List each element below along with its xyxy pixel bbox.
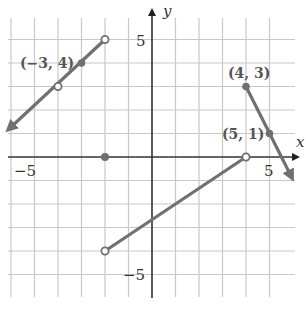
label-minus3-4: (−3, 4) <box>20 55 74 71</box>
y-axis-label: y <box>162 2 172 20</box>
open-point-minus2-5 <box>101 36 108 43</box>
open-point-minus4-3 <box>54 83 61 90</box>
piecewise-graph: x y −5 5 5 −5 (−3, 4) (4, 3) (5, 1) <box>0 0 306 315</box>
closed-point-4-3 <box>242 83 250 91</box>
x-axis-label: x <box>296 133 305 151</box>
closed-point-minus2-0 <box>101 153 109 161</box>
open-point-4-0 <box>242 153 249 160</box>
tick-x-neg5: −5 <box>14 162 36 180</box>
label-4-3: (4, 3) <box>228 65 270 81</box>
tick-x-5: 5 <box>264 162 274 180</box>
open-point-minus2-minus4 <box>101 247 108 254</box>
closed-point-5-1 <box>266 130 274 138</box>
tick-y-neg5: −5 <box>123 266 145 284</box>
tick-y-5: 5 <box>136 32 146 50</box>
label-5-1: (5, 1) <box>222 126 264 142</box>
closed-point-minus3-4 <box>78 59 86 67</box>
